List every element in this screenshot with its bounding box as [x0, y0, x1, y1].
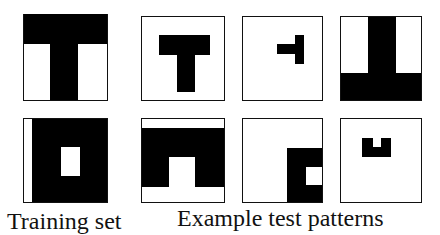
test-pattern-arch [141, 118, 225, 203]
test-pattern-inverted-t [340, 16, 422, 101]
training-pattern-rotated [23, 118, 108, 203]
test-patterns-label: Example test patterns [177, 206, 384, 230]
u-notch [373, 138, 381, 147]
test-pattern-small-t [141, 16, 225, 101]
frame [23, 14, 108, 101]
shape-notch [61, 147, 80, 176]
training-set-label: Training set [7, 209, 121, 233]
shape-right-block [80, 119, 107, 203]
test-pattern-block-with-hole [242, 118, 323, 203]
horizontal-bar [277, 44, 297, 54]
test-pattern-tiny-rotated-t [242, 16, 323, 101]
arch-notch [169, 157, 195, 187]
training-pattern-t [23, 14, 108, 101]
base-bar [341, 73, 422, 101]
t-bar [159, 35, 210, 55]
test-pattern-tiny-u [340, 118, 422, 203]
t-stem [177, 55, 195, 92]
hole [306, 167, 322, 185]
stem [368, 17, 396, 73]
